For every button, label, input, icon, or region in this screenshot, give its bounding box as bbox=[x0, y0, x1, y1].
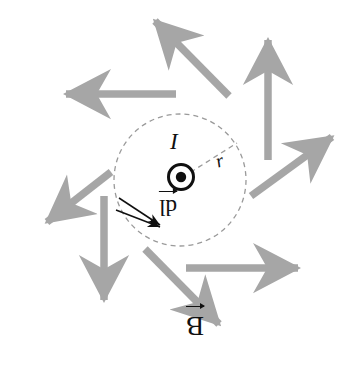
dl-pointer-arrow bbox=[119, 198, 160, 225]
magnetic-field-label: B bbox=[186, 312, 204, 339]
arrow-lower-right-diagonal bbox=[145, 249, 219, 324]
magnetic-field-diagram: I r dl B bbox=[0, 0, 362, 370]
arrow-upper-right-diagonal bbox=[251, 137, 332, 196]
length-element-label-text: dl bbox=[159, 195, 177, 220]
dl-pointer-arrow-secondary bbox=[116, 210, 160, 227]
vector-arrow-overbar bbox=[186, 306, 204, 307]
field-arrows-layer bbox=[0, 0, 362, 370]
arrow-upper-left-diagonal bbox=[155, 21, 229, 96]
vector-arrow-overbar bbox=[159, 191, 177, 192]
length-element-label: dl bbox=[159, 196, 177, 219]
current-label: I bbox=[170, 130, 178, 153]
magnetic-field-label-text: B bbox=[186, 311, 204, 341]
circle-dot-icon bbox=[169, 165, 194, 190]
